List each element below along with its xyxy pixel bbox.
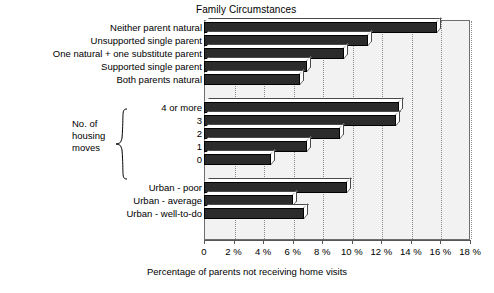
category-label: Urban - well-to-do [6,209,202,219]
bar-side-face [307,136,311,152]
group-annotation-line-2: housing [72,130,105,142]
x-tick [440,240,441,244]
bar-side-face [437,17,441,33]
bar [204,154,271,165]
category-label: 0 [6,155,202,165]
x-tick-label: 18 % [459,246,481,257]
bar-side-face [340,123,344,139]
x-tick [411,240,412,244]
chart-title: Family Circumstances [196,4,296,15]
bar-chart: Family Circumstances Neither parent natu… [0,0,494,293]
x-tick [322,240,323,244]
bar-side-face [368,30,372,46]
gridline-18 [471,21,472,239]
x-tick-label: 0 [201,246,206,257]
group-brace-icon [115,108,129,180]
bar-side-face [347,177,351,193]
bar-side-face [396,110,400,126]
x-tick [263,240,264,244]
x-tick [470,240,471,244]
category-label: 4 or more [6,103,202,113]
x-tick-label: 10 % [341,246,363,257]
bar-side-face [307,56,311,72]
category-label: Both parents natural [6,75,202,85]
x-tick-label: 14 % [400,246,422,257]
x-tick [352,240,353,244]
x-tick [293,240,294,244]
x-tick-label: 8 % [314,246,330,257]
x-tick-label: 2 % [225,246,241,257]
x-tick [204,240,205,244]
group-annotation-line-3: moves [72,142,105,154]
group-annotation-housing-moves: No. of housing moves [72,118,105,154]
bar-side-face [344,43,348,59]
bar-side-face [300,69,304,85]
x-axis-line [204,240,471,241]
category-label: One natural + one substitute parent [6,49,202,59]
x-tick [234,240,235,244]
x-tick-label: 12 % [371,246,393,257]
bar [204,208,304,219]
x-tick [381,240,382,244]
bars-layer [204,20,470,240]
category-label: Neither parent natural [6,23,202,33]
bar-side-face [304,203,308,219]
category-label: Unsupported single parent [6,36,202,46]
category-label: Urban - average [6,196,202,206]
x-tick-label: 4 % [255,246,271,257]
group-annotation-line-1: No. of [72,118,105,130]
category-label: Supported single parent [6,62,202,72]
x-tick-label: 6 % [284,246,300,257]
x-axis-title: Percentage of parents not receiving home… [0,266,494,277]
bar [204,74,300,85]
x-tick-label: 16 % [430,246,452,257]
category-label: Urban - poor [6,183,202,193]
